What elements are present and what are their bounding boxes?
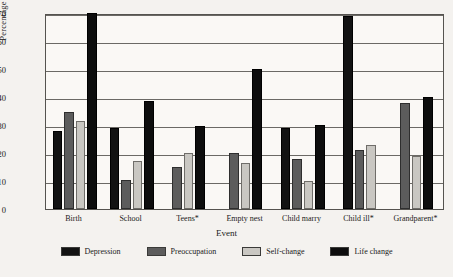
legend-item[interactable]: Depression bbox=[61, 247, 121, 256]
bar-self-change[interactable] bbox=[412, 156, 422, 209]
x-tick-label: Birth bbox=[65, 214, 81, 223]
bar-depression[interactable] bbox=[110, 128, 120, 209]
legend-item[interactable]: Life change bbox=[330, 247, 392, 256]
legend-item[interactable]: Self-change bbox=[242, 247, 304, 256]
bar-self-change[interactable] bbox=[241, 163, 251, 209]
legend-swatch-icon bbox=[242, 247, 261, 256]
bar-group bbox=[331, 15, 388, 209]
bar-group bbox=[46, 15, 103, 209]
x-tick-label: Teens* bbox=[176, 214, 199, 223]
bar-group bbox=[217, 15, 274, 209]
x-tick-label: Empty nest bbox=[226, 214, 262, 223]
y-tick-label: 20 bbox=[0, 150, 6, 159]
bar-depression[interactable] bbox=[281, 128, 291, 209]
bar-group bbox=[103, 15, 160, 209]
bar-group bbox=[388, 15, 445, 209]
y-tick-label: 40 bbox=[0, 94, 6, 103]
y-tick-label: 70 bbox=[0, 10, 6, 19]
y-tick-label: 30 bbox=[0, 122, 6, 131]
bar-life-change[interactable] bbox=[252, 69, 262, 209]
bar-depression[interactable] bbox=[343, 16, 353, 209]
bar-preoccupation[interactable] bbox=[121, 180, 131, 209]
x-tick-label: School bbox=[119, 214, 141, 223]
bar-group bbox=[160, 15, 217, 209]
bar-preoccupation[interactable] bbox=[64, 112, 74, 209]
bar-chart-figure: Percentage Who React 010203040506070 Bir… bbox=[0, 0, 453, 277]
bar-self-change[interactable] bbox=[76, 121, 86, 209]
legend-label: Preoccupation bbox=[171, 247, 217, 256]
bar-preoccupation[interactable] bbox=[355, 150, 365, 209]
bar-life-change[interactable] bbox=[195, 126, 205, 209]
bar-life-change[interactable] bbox=[144, 101, 154, 209]
legend-swatch-icon bbox=[61, 247, 80, 256]
bar-preoccupation[interactable] bbox=[172, 167, 182, 209]
y-tick-label: 10 bbox=[0, 178, 6, 187]
x-axis-title: Event bbox=[0, 228, 453, 238]
bar-life-change[interactable] bbox=[315, 125, 325, 209]
bar-preoccupation[interactable] bbox=[400, 103, 410, 209]
legend-swatch-icon bbox=[147, 247, 166, 256]
bar-self-change[interactable] bbox=[366, 145, 376, 209]
bar-life-change[interactable] bbox=[87, 13, 97, 209]
legend-swatch-icon bbox=[330, 247, 349, 256]
legend-label: Self-change bbox=[266, 247, 304, 256]
x-tick-label: Child ill* bbox=[343, 214, 373, 223]
bar-series-container bbox=[46, 15, 443, 209]
bar-preoccupation[interactable] bbox=[292, 159, 302, 209]
legend-item[interactable]: Preoccupation bbox=[147, 247, 217, 256]
bar-self-change[interactable] bbox=[184, 153, 194, 209]
legend-label: Depression bbox=[85, 247, 121, 256]
x-tick-label: Child marry bbox=[282, 214, 321, 223]
bar-group bbox=[274, 15, 331, 209]
legend-label: Life change bbox=[354, 247, 392, 256]
bar-depression[interactable] bbox=[53, 131, 63, 209]
y-tick-label: 60 bbox=[0, 38, 6, 47]
bar-preoccupation[interactable] bbox=[229, 153, 239, 209]
chart-legend: DepressionPreoccupationSelf-changeLife c… bbox=[0, 247, 453, 256]
y-tick-label: 0 bbox=[0, 206, 6, 215]
plot-area bbox=[45, 14, 444, 210]
x-tick-label: Grandparent* bbox=[394, 214, 438, 223]
bar-life-change[interactable] bbox=[423, 97, 433, 209]
y-tick-label: 50 bbox=[0, 66, 6, 75]
bar-self-change[interactable] bbox=[133, 161, 143, 209]
bar-self-change[interactable] bbox=[304, 181, 314, 209]
